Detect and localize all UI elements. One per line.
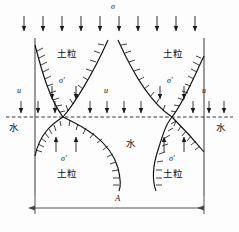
soil-label-upper-left: 土粒 (57, 46, 78, 60)
effective-stress-label-upper-right: σ′ (167, 76, 173, 85)
hatch-upper-center-right (121, 44, 165, 111)
hatch-upper-right (171, 56, 201, 112)
top-load-arrow-row (24, 16, 195, 31)
effective-stress-diagram: σ 土粒 土粒 土粒 土粒 水 水 水 u u u σ′ σ′ σ′ σ′ A (0, 0, 239, 232)
effective-stress-label-lower-right: σ′ (169, 154, 175, 163)
water-label-center: 水 (126, 136, 136, 150)
grain-boundary-lower-left (35, 117, 63, 156)
pore-pressure-arrow-row (21, 101, 224, 113)
total-stress-symbol: σ (111, 2, 115, 11)
effective-stress-label-upper-left: σ′ (59, 76, 65, 85)
soil-label-lower-left: 土粒 (57, 166, 78, 180)
dimension-label: A (115, 193, 120, 203)
hatch-lower-left (36, 121, 61, 152)
pore-pressure-label-left: u (17, 86, 21, 95)
grain-boundary-upper-right (172, 56, 204, 117)
water-label-right: 水 (216, 120, 226, 134)
upper-effective-stress-arrows (52, 86, 184, 99)
hatch-lower-right (174, 121, 200, 150)
soil-label-lower-right: 土粒 (163, 166, 184, 180)
effective-stress-label-lower-left: σ′ (61, 154, 67, 163)
soil-label-upper-right: 土粒 (163, 46, 184, 60)
pore-pressure-label-center: u (104, 86, 108, 95)
pore-pressure-label-right: u (202, 86, 206, 95)
water-label-left: 水 (9, 120, 19, 134)
lower-effective-stress-arrows (56, 137, 184, 152)
